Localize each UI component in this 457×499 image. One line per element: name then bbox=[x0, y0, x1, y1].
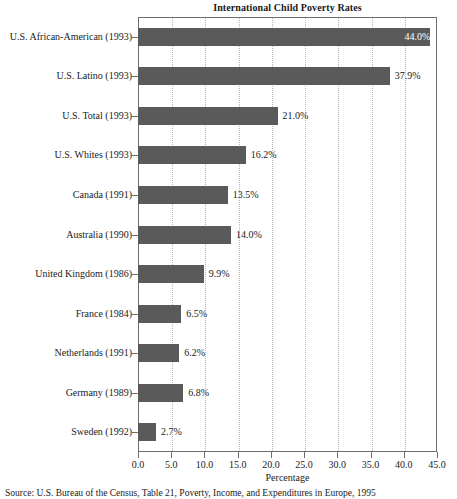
category-label: Canada (1991) bbox=[0, 189, 132, 201]
x-tick bbox=[271, 452, 272, 458]
x-tick bbox=[371, 452, 372, 458]
category-label: U.S. African-American (1993) bbox=[0, 31, 132, 43]
bar bbox=[138, 423, 156, 441]
category-tick bbox=[131, 432, 138, 433]
category-label: U.S. Latino (1993) bbox=[0, 70, 132, 82]
x-tick bbox=[304, 452, 305, 458]
bar-value-label: 2.7% bbox=[156, 423, 182, 441]
bar bbox=[138, 226, 231, 244]
category-label: U.S. Total (1993) bbox=[0, 110, 132, 122]
category-label: France (1984) bbox=[0, 308, 132, 320]
category-tick bbox=[131, 235, 138, 236]
bar-value-label: 37.9% bbox=[390, 67, 421, 85]
bar bbox=[138, 186, 228, 204]
x-tick bbox=[337, 452, 338, 458]
category-tick bbox=[131, 155, 138, 156]
category-label: United Kingdom (1986) bbox=[0, 268, 132, 280]
bar-value-label: 6.8% bbox=[183, 384, 209, 402]
bar-value-label: 16.2% bbox=[246, 146, 277, 164]
category-label: Germany (1989) bbox=[0, 387, 132, 399]
category-tick bbox=[131, 353, 138, 354]
x-tick bbox=[171, 452, 172, 458]
category-tick bbox=[131, 116, 138, 117]
category-label: Sweden (1992) bbox=[0, 426, 132, 438]
category-tick bbox=[131, 274, 138, 275]
category-label: Australia (1990) bbox=[0, 229, 132, 241]
x-tick bbox=[204, 452, 205, 458]
x-tick bbox=[437, 452, 438, 458]
category-tick bbox=[131, 314, 138, 315]
category-label: U.S. Whites (1993) bbox=[0, 149, 132, 161]
chart-title: International Child Poverty Rates bbox=[138, 1, 437, 14]
x-tick bbox=[238, 452, 239, 458]
category-tick bbox=[131, 195, 138, 196]
category-tick bbox=[131, 393, 138, 394]
bar-value-label: 21.0% bbox=[278, 107, 309, 125]
category-tick bbox=[131, 76, 138, 77]
bar-value-label: 44.0% bbox=[138, 28, 436, 46]
bar bbox=[138, 344, 179, 362]
bar bbox=[138, 146, 246, 164]
bar bbox=[138, 67, 390, 85]
category-tick bbox=[131, 37, 138, 38]
bar bbox=[138, 107, 278, 125]
bar-value-label: 9.9% bbox=[204, 265, 230, 283]
x-axis-title: Percentage bbox=[138, 472, 437, 484]
bar-value-label: 6.2% bbox=[179, 344, 205, 362]
x-tick bbox=[404, 452, 405, 458]
bar-value-label: 14.0% bbox=[231, 226, 262, 244]
bar-value-label: 13.5% bbox=[228, 186, 259, 204]
bar bbox=[138, 305, 181, 323]
x-tick bbox=[138, 452, 139, 458]
bar bbox=[138, 265, 204, 283]
bar-value-label: 6.5% bbox=[181, 305, 207, 323]
bar bbox=[138, 384, 183, 402]
x-tick-label: 45.0 bbox=[417, 459, 457, 471]
category-label: Netherlands (1991) bbox=[0, 347, 132, 359]
source-note: Source: U.S. Bureau of the Census, Table… bbox=[5, 487, 457, 499]
